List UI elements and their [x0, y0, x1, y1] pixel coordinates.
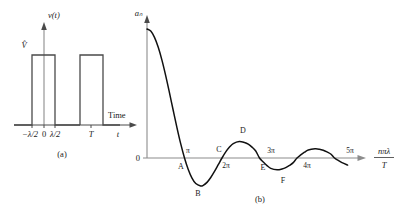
panel-b-point-label-e: E — [261, 163, 266, 172]
figure-root: v(t) V̂ −λ/2 0 λ/2 T Time t (a) — [0, 0, 409, 214]
panel-b-zero-label: 0 — [136, 153, 140, 163]
panel-b-x-axis-label-numerator: nπλ — [378, 146, 391, 156]
panel-b-point-label-d: D — [240, 126, 246, 135]
panel-a-amplitude-label: V̂ — [21, 40, 28, 50]
panel-b-tick-label-4pi: 4π — [303, 161, 311, 170]
panel-a-tick-label-period: T — [89, 129, 95, 139]
panel-a-tick-label-zero: 0 — [42, 129, 46, 139]
panel-a-caption: (a) — [57, 149, 67, 159]
pulse-1 — [14, 55, 80, 125]
panel-b-tick-label-pi: π — [186, 146, 190, 155]
figure-svg: v(t) V̂ −λ/2 0 λ/2 T Time t (a) — [0, 0, 409, 214]
panel-b-point-label-f: F — [281, 176, 286, 185]
panel-b: aₙ 0 π 2π 3π 4π 5π A B C D E F nπλ T (b) — [135, 8, 394, 204]
panel-b-y-axis-label: aₙ — [135, 8, 143, 18]
panel-b-tick-label-2pi: 2π — [222, 161, 230, 170]
panel-a-y-axis-label: v(t) — [48, 10, 60, 20]
panel-b-point-label-a: A — [178, 162, 184, 171]
sinc-curve — [147, 29, 348, 186]
panel-a-x-axis-label: t — [117, 129, 120, 139]
panel-b-tick-label-3pi: 3π — [267, 146, 275, 155]
panel-b-tick-label-5pi: 5π — [346, 146, 354, 155]
panel-a-tick-label-lambda-half: λ/2 — [49, 129, 61, 139]
panel-a-y-axis — [41, 22, 47, 125]
panel-b-point-label-b: B — [195, 189, 200, 198]
panel-a: v(t) V̂ −λ/2 0 λ/2 T Time t (a) — [14, 10, 137, 159]
panel-b-x-axis-label: nπλ T — [374, 146, 394, 170]
panel-b-y-axis-label-group: aₙ — [135, 8, 143, 18]
panel-b-caption: (b) — [255, 194, 265, 204]
panel-a-tick-label-neg-lambda-half: −λ/2 — [22, 129, 39, 139]
panel-a-x-axis-name: Time — [108, 110, 126, 120]
panel-b-y-axis — [144, 15, 150, 158]
panel-b-x-axis-label-denominator: T — [382, 160, 388, 170]
panel-b-point-label-c: C — [216, 145, 221, 154]
